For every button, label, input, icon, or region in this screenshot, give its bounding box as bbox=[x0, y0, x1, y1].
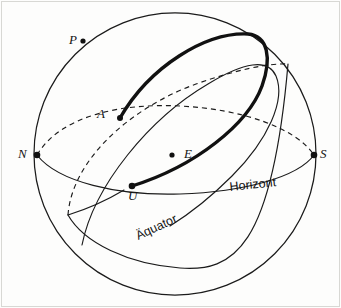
sphere-outline bbox=[34, 13, 316, 295]
point-label-E: E bbox=[184, 147, 192, 160]
point-label-U: U bbox=[128, 189, 137, 202]
point-label-S: S bbox=[320, 147, 327, 160]
celestial-sphere-figure: P A N S E U Horizont Äquator bbox=[0, 0, 341, 308]
sphere-drawing bbox=[0, 0, 341, 308]
horizon-back-arc bbox=[37, 106, 314, 155]
point-marker-E bbox=[169, 152, 174, 157]
point-label-P: P bbox=[69, 33, 77, 46]
sun-daily-path bbox=[120, 34, 267, 186]
point-marker-A bbox=[117, 115, 123, 121]
point-label-N: N bbox=[18, 147, 27, 160]
lower-parallel-arc bbox=[82, 65, 279, 245]
point-marker-P bbox=[80, 38, 85, 43]
equator-back-arc bbox=[68, 64, 288, 215]
equator-band-edge bbox=[68, 190, 124, 215]
point-label-A: A bbox=[97, 107, 105, 120]
point-marker-N bbox=[34, 152, 41, 159]
point-marker-S bbox=[311, 152, 318, 159]
